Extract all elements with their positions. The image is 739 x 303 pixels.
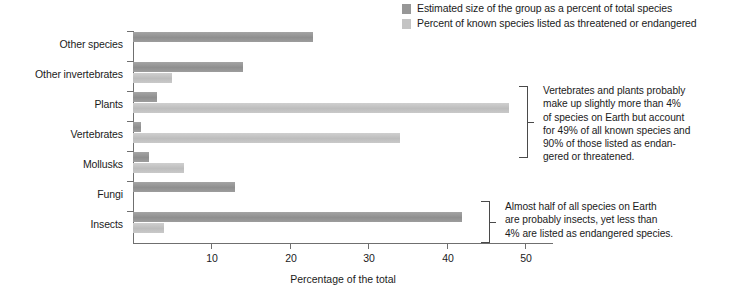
x-axis-tick [525,243,526,249]
y-axis-label-fungi: Fungi [3,188,123,200]
y-axis-label-vertebrates: Vertebrates [3,128,123,140]
annotation-line: are probably insects, yet less than [505,213,729,226]
bar-other-invertebrates-series-2 [133,73,172,83]
annotation-bracket-insects [481,201,496,243]
annotation-line: Almost half of all species on Earth [505,200,729,213]
x-axis-line [133,243,553,244]
x-axis-tick-label: 10 [206,252,218,264]
y-axis-label-other-species: Other species [3,38,123,50]
bar-plants-series-1 [133,92,157,102]
x-axis-tick-label: 40 [442,252,454,264]
x-axis-tick [290,243,291,249]
bar-insects-series-2 [133,223,164,233]
y-axis-label-insects: Insects [3,218,123,230]
x-axis-title: Percentage of the total [133,273,553,285]
bar-chart-plot: Other species Other invertebrates Plants… [0,0,739,303]
bar-vertebrates-series-2 [133,133,400,143]
annotation-line: 4% are listed as endangered species. [505,227,729,240]
annotation-vertebrates-plants: Vertebrates and plants probablymake up s… [543,84,735,164]
annotation-line: 90% of those listed as endan- [543,137,735,150]
annotation-line: gered or threatened. [543,150,735,163]
x-axis-tick-label: 30 [363,252,375,264]
bar-insects-series-1 [133,212,462,222]
x-axis-tick-label: 20 [285,252,297,264]
y-axis-label-plants: Plants [3,98,123,110]
annotation-line: of species on Earth but account [543,111,735,124]
x-axis-tick-label: 50 [520,252,532,264]
x-axis-tick [368,243,369,249]
annotation-line: make up slightly more than 4% [543,97,735,110]
annotation-bracket-vertebrates-plants [519,86,534,158]
x-axis-tick [211,243,212,249]
bar-vertebrates-series-1 [133,122,141,132]
bar-mollusks-series-1 [133,152,149,162]
annotation-insects: Almost half of all species on Earthare p… [505,200,729,240]
bar-fungi-series-1 [133,182,235,192]
x-axis-tick [447,243,448,249]
bar-other-species-series-1 [133,32,313,42]
bar-mollusks-series-2 [133,163,184,173]
y-axis-label-other-invertebrates: Other invertebrates [3,68,123,80]
bar-plants-series-2 [133,103,509,113]
annotation-line: Vertebrates and plants probably [543,84,735,97]
y-axis-label-mollusks: Mollusks [3,158,123,170]
bar-other-invertebrates-series-1 [133,62,243,72]
annotation-line: for 49% of all known species and [543,124,735,137]
